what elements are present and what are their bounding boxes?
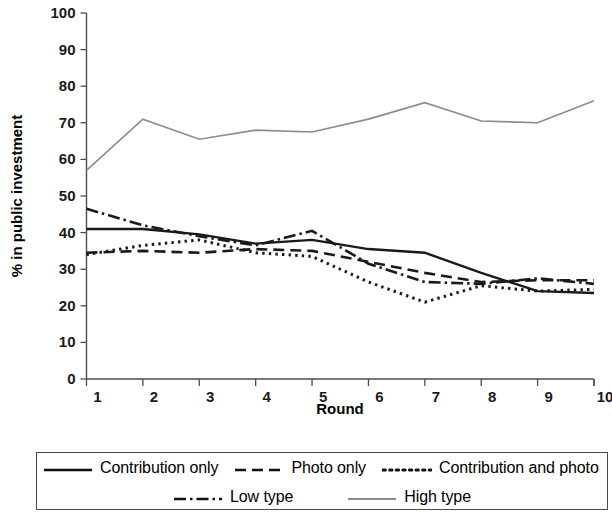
y-tick-label: 40 bbox=[59, 224, 76, 241]
x-tick-label: 3 bbox=[206, 388, 214, 405]
y-tick-label: 30 bbox=[59, 260, 76, 277]
legend-item-label: High type bbox=[404, 488, 471, 506]
series-line bbox=[87, 249, 595, 282]
x-tick-label: 8 bbox=[488, 388, 496, 405]
y-axis-tick-labels: 0102030405060708090100 bbox=[50, 4, 75, 387]
y-axis-ticks bbox=[81, 13, 87, 379]
legend-item[interactable]: Low type bbox=[173, 488, 293, 506]
legend-line-swatch-dashed bbox=[234, 462, 284, 474]
y-tick-label: 100 bbox=[50, 4, 75, 21]
chart-legend: Contribution onlyPhoto onlyContribution … bbox=[36, 452, 608, 510]
legend-item-label: Photo only bbox=[291, 459, 366, 477]
x-tick-label: 4 bbox=[262, 388, 271, 405]
legend-line-swatch-dash-dot bbox=[173, 491, 223, 503]
legend-item[interactable]: Photo only bbox=[234, 459, 366, 477]
legend-line-swatch-dotted bbox=[382, 462, 432, 474]
legend-item[interactable]: Contribution and photo bbox=[382, 459, 599, 477]
x-tick-label: 10 bbox=[597, 388, 612, 405]
x-axis-title: Round bbox=[316, 400, 363, 417]
series-line bbox=[87, 229, 595, 293]
y-axis-title: % in public investment bbox=[8, 115, 25, 278]
series-line bbox=[87, 101, 595, 171]
x-tick-label: 6 bbox=[375, 388, 383, 405]
x-tick-label: 1 bbox=[93, 388, 101, 405]
series-line bbox=[87, 209, 595, 284]
y-tick-label: 50 bbox=[59, 187, 76, 204]
legend-line-swatch-solid-gray bbox=[347, 491, 397, 503]
legend-item-label: Contribution only bbox=[100, 459, 218, 477]
y-tick-label: 80 bbox=[59, 77, 76, 94]
y-tick-label: 90 bbox=[59, 41, 76, 58]
line-chart-plot: 0102030405060708090100 12345678910 Round… bbox=[0, 0, 612, 452]
x-tick-label: 7 bbox=[432, 388, 440, 405]
legend-row-secondary: Low typeHigh type bbox=[37, 482, 607, 511]
y-tick-label: 20 bbox=[59, 297, 76, 314]
data-series-group bbox=[87, 101, 595, 302]
series-line bbox=[87, 240, 595, 302]
legend-item-label: Contribution and photo bbox=[439, 459, 599, 477]
chart-figure: 0102030405060708090100 12345678910 Round… bbox=[0, 0, 612, 513]
legend-item[interactable]: High type bbox=[347, 488, 471, 506]
y-tick-label: 0 bbox=[67, 370, 75, 387]
legend-row-primary: Contribution onlyPhoto onlyContribution … bbox=[37, 453, 607, 482]
x-tick-label: 9 bbox=[544, 388, 552, 405]
x-axis-ticks bbox=[87, 379, 595, 386]
x-tick-label: 2 bbox=[150, 388, 158, 405]
y-tick-label: 60 bbox=[59, 150, 76, 167]
legend-item-label: Low type bbox=[230, 488, 293, 506]
y-tick-label: 70 bbox=[59, 114, 76, 131]
legend-item[interactable]: Contribution only bbox=[43, 459, 218, 477]
y-tick-label: 10 bbox=[59, 333, 76, 350]
legend-line-swatch-solid bbox=[43, 462, 93, 474]
